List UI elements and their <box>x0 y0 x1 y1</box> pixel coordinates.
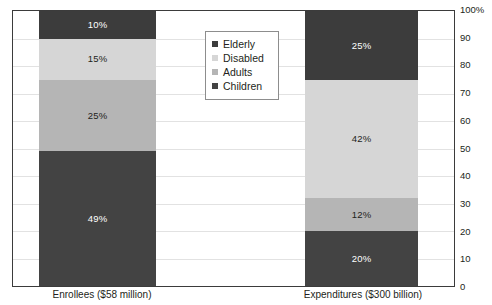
bar-segment-adults[interactable]: 12% <box>305 198 418 231</box>
legend-item-label: Children <box>223 81 262 92</box>
legend-item-label: Adults <box>223 67 252 78</box>
bar-segment-disabled[interactable]: 15% <box>39 39 156 80</box>
y-axis-tick: 80 <box>460 61 471 71</box>
legend-item-children[interactable]: Children <box>212 79 272 93</box>
bar-segment-label: 15% <box>88 54 108 64</box>
y-axis-tick: 20 <box>460 227 471 237</box>
bar-segment-elderly[interactable]: 25% <box>305 11 418 80</box>
y-axis-tick: 30 <box>460 199 471 209</box>
legend-swatch-icon <box>212 55 218 61</box>
legend-item-adults[interactable]: Adults <box>212 65 272 79</box>
bar-segment-label: 49% <box>88 214 108 224</box>
legend-swatch-icon <box>212 41 218 47</box>
legend-item-elderly[interactable]: Elderly <box>212 37 272 51</box>
bar-segment-label: 12% <box>352 210 372 220</box>
stacked-bar-chart: 10% 15% 25% 49% 25% 42% 12% 20% <box>0 0 492 305</box>
bar-segment-disabled[interactable]: 42% <box>305 80 418 198</box>
bar-segment-label: 20% <box>352 254 372 264</box>
bar-segment-label: 42% <box>352 134 372 144</box>
bar-segment-elderly[interactable]: 10% <box>39 11 156 39</box>
legend-item-label: Elderly <box>223 39 255 50</box>
y-axis-tick: 50 <box>460 144 471 154</box>
bar-segment-children[interactable]: 20% <box>305 231 418 286</box>
y-axis-tick: 60 <box>460 116 471 126</box>
legend-item-label: Disabled <box>223 53 264 64</box>
y-axis-tick: 100% <box>460 5 484 15</box>
bar-expenditures[interactable]: 25% 42% 12% 20% <box>305 11 418 286</box>
bar-segment-label: 25% <box>88 111 108 121</box>
y-axis: 100% 90 80 70 60 50 40 30 20 10 0 <box>460 10 492 287</box>
legend-swatch-icon <box>212 69 218 75</box>
y-axis-tick: 40 <box>460 171 471 181</box>
plot-area: 10% 15% 25% 49% 25% 42% 12% 20% <box>12 10 455 287</box>
legend: Elderly Disabled Adults Children <box>205 31 279 100</box>
y-axis-tick: 70 <box>460 88 471 98</box>
bar-segment-children[interactable]: 49% <box>39 151 156 286</box>
x-axis-label-enrollees: Enrollees ($58 million) <box>12 290 192 300</box>
x-axis-label-expenditures: Expenditures ($300 billion) <box>268 290 458 300</box>
bar-segment-label: 25% <box>352 41 372 51</box>
legend-item-disabled[interactable]: Disabled <box>212 51 272 65</box>
bar-enrollees[interactable]: 10% 15% 25% 49% <box>39 11 156 286</box>
y-axis-tick: 90 <box>460 33 471 43</box>
bar-segment-label: 10% <box>88 20 108 30</box>
y-axis-tick: 10 <box>460 255 471 265</box>
y-axis-tick: 0 <box>460 282 465 292</box>
legend-swatch-icon <box>212 83 218 89</box>
bar-segment-adults[interactable]: 25% <box>39 80 156 152</box>
